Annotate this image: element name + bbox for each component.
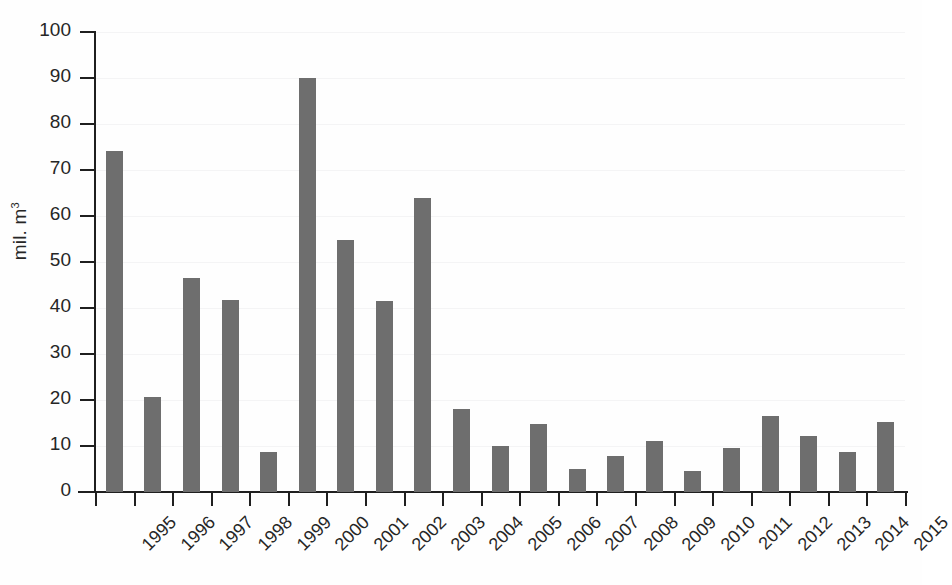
bar: [453, 409, 470, 492]
plot-area: [95, 32, 905, 492]
x-axis-tick-label: 2004: [485, 512, 528, 555]
x-axis-tick-mark: [211, 493, 213, 506]
x-axis-tick-label: 1996: [177, 512, 220, 555]
x-axis-tick-mark: [751, 493, 753, 506]
bar: [299, 78, 316, 492]
x-axis-tick-label: 1998: [254, 512, 297, 555]
x-axis-tick-label: 2003: [447, 512, 490, 555]
x-axis-tick-mark: [558, 493, 560, 506]
y-axis-tick-mark: [80, 169, 95, 171]
y-axis-tick-label: 30: [50, 341, 71, 363]
bar: [723, 448, 740, 492]
x-axis-tick-label: 2011: [755, 512, 797, 554]
x-axis-tick-mark: [674, 493, 676, 506]
x-axis-tick-label: 1999: [292, 512, 335, 555]
x-axis-tick-label: 2006: [562, 512, 605, 555]
bar: [414, 198, 431, 492]
y-axis-title: mil. m3: [9, 171, 31, 291]
y-axis-tick-mark: [80, 215, 95, 217]
x-axis-tick-label: 2012: [794, 512, 837, 555]
y-axis-tick-label: 60: [50, 203, 71, 225]
x-axis-tick-label: 2010: [717, 512, 760, 555]
y-axis-tick-label: 80: [50, 111, 71, 133]
bar: [607, 456, 624, 492]
bar: [800, 436, 817, 492]
x-axis-tick-mark: [866, 493, 868, 506]
x-axis-tick-label: 1997: [215, 512, 258, 555]
bar: [492, 446, 509, 492]
x-axis-tick-mark: [95, 493, 97, 506]
bar: [646, 441, 663, 492]
y-axis-tick-mark: [80, 445, 95, 447]
x-axis-tick-mark: [172, 493, 174, 506]
bar: [839, 452, 856, 492]
y-axis-title-superscript: 3: [9, 202, 21, 208]
x-axis-tick-mark: [326, 493, 328, 506]
x-axis-tick-mark: [828, 493, 830, 506]
bar: [530, 424, 547, 492]
bar: [376, 301, 393, 492]
bar: [762, 416, 779, 492]
x-axis-tick-mark: [905, 493, 907, 506]
x-axis-tick-label: 2015: [909, 512, 952, 555]
bar: [222, 300, 239, 492]
y-axis-tick-label: 90: [50, 65, 71, 87]
bar: [684, 471, 701, 492]
y-axis-tick-mark: [80, 491, 95, 493]
y-axis-tick-label: 40: [50, 295, 71, 317]
x-axis-tick-label: 2014: [871, 512, 914, 555]
y-axis-tick-mark: [80, 123, 95, 125]
x-axis-tick-label: 2007: [601, 512, 644, 555]
x-axis-tick-mark: [635, 493, 637, 506]
y-axis-tick-label: 0: [60, 479, 71, 501]
x-axis-tick-mark: [249, 493, 251, 506]
bar: [260, 452, 277, 492]
x-axis-tick-mark: [712, 493, 714, 506]
x-axis-tick-mark: [481, 493, 483, 506]
x-axis-tick-mark: [288, 493, 290, 506]
x-axis-tick-label: 2000: [331, 512, 374, 555]
x-axis-tick-mark: [134, 493, 136, 506]
x-axis-tick-mark: [365, 493, 367, 506]
y-axis-tick-label: 20: [50, 387, 71, 409]
bar: [569, 469, 586, 492]
x-axis-tick-mark: [789, 493, 791, 506]
y-axis-tick-label: 50: [50, 249, 71, 271]
bar: [106, 151, 123, 492]
y-axis-tick-mark: [80, 353, 95, 355]
y-axis-tick-label: 70: [50, 157, 71, 179]
y-axis-title-text: mil. m: [9, 208, 30, 260]
bar: [144, 397, 161, 492]
bar: [877, 422, 894, 492]
x-axis-tick-label: 2002: [408, 512, 451, 555]
x-axis-tick-label: 2009: [678, 512, 721, 555]
x-axis-tick-mark: [596, 493, 598, 506]
x-axis-tick-label: 2008: [639, 512, 682, 555]
x-axis-tick-label: 1995: [138, 512, 181, 555]
x-axis-tick-mark: [404, 493, 406, 506]
y-axis-tick-label: 100: [39, 19, 71, 41]
y-axis-tick-mark: [80, 261, 95, 263]
x-axis-tick-mark: [442, 493, 444, 506]
x-axis-tick-mark: [519, 493, 521, 506]
bar: [337, 240, 354, 492]
y-axis-tick-mark: [80, 399, 95, 401]
x-axis-tick-label: 2001: [369, 512, 412, 555]
y-axis-tick-mark: [80, 31, 95, 33]
y-axis-tick-label: 10: [50, 433, 71, 455]
x-axis-tick-label: 2013: [832, 512, 875, 555]
y-axis-tick-mark: [80, 307, 95, 309]
y-axis-tick-mark: [80, 77, 95, 79]
x-axis-tick-label: 2005: [524, 512, 567, 555]
bar: [183, 278, 200, 492]
